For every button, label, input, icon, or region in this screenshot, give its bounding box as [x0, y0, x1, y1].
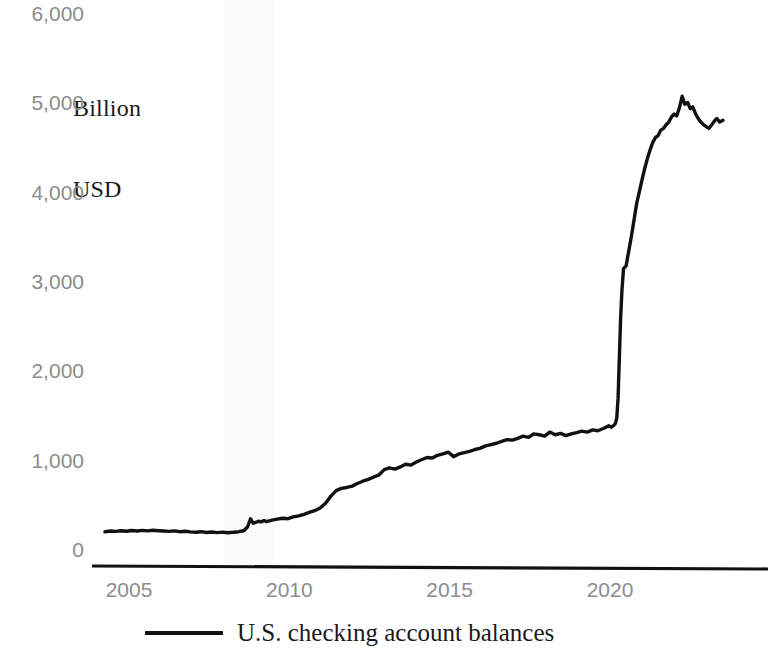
x-axis-tick-2010: 2010	[266, 578, 313, 602]
legend-label: U.S. checking account balances	[237, 620, 554, 645]
legend-line-swatch	[145, 631, 223, 635]
x-axis-tick-2005: 2005	[106, 578, 153, 602]
recession-2007-2009	[224, 0, 274, 566]
x-axis-line	[92, 566, 768, 569]
x-axis-line-group	[92, 566, 768, 569]
recession-shading-group	[224, 0, 274, 566]
chart-plot-area	[0, 0, 771, 666]
series-paths-group	[105, 96, 723, 533]
x-axis-tick-2020: 2020	[587, 578, 634, 602]
chart-page: Billion USD 6,0005,0004,0003,0002,0001,0…	[0, 0, 771, 666]
chart-legend: U.S. checking account balances	[145, 620, 554, 645]
series-line-0	[105, 96, 723, 533]
x-axis-tick-2015: 2015	[426, 578, 473, 602]
